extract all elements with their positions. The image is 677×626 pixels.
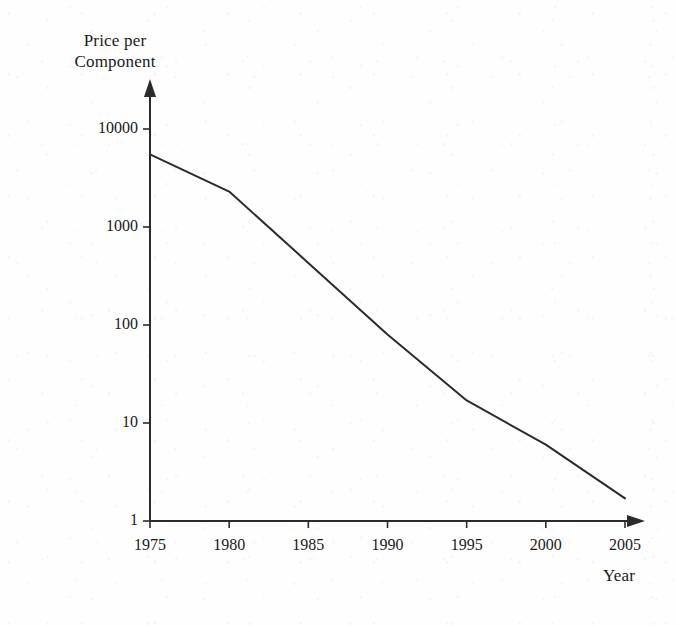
x-axis-tick-label: 1975: [120, 536, 180, 554]
x-axis-tick-label: 1995: [437, 536, 497, 554]
x-axis-tick-label: 1990: [358, 536, 418, 554]
y-axis-tick-label: 1: [46, 511, 138, 529]
y-axis-tick-label: 10: [46, 413, 138, 431]
x-axis-tick-label: 2000: [516, 536, 576, 554]
x-axis-tick-label: 1980: [199, 536, 259, 554]
y-axis-tick-label: 100: [46, 315, 138, 333]
y-axis-arrow-icon: [144, 79, 156, 97]
x-axis-arrow-icon: [627, 515, 645, 527]
y-axis-title-line2: Component: [60, 51, 170, 72]
x-axis-title: Year: [603, 565, 635, 586]
y-axis-title-line1: Price per: [60, 30, 170, 51]
chart-figure: Price per Component Year 110100100010000…: [0, 0, 677, 626]
y-axis-title: Price per Component: [60, 30, 170, 72]
x-axis-tick-label: 1985: [278, 536, 338, 554]
x-axis-ticks: [150, 521, 625, 528]
y-axis-ticks: [143, 129, 150, 521]
y-axis-tick-label: 10000: [46, 119, 138, 137]
x-axis-tick-label: 2005: [595, 536, 655, 554]
y-axis-tick-label: 1000: [46, 217, 138, 235]
chart-plot-area: [0, 0, 677, 626]
price-per-component-line: [150, 154, 625, 498]
